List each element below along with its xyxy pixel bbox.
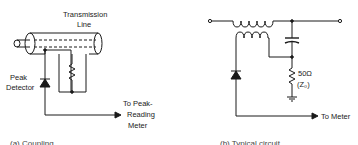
inductor-primary-icon (233, 21, 273, 27)
transmission-line-label-1: Transmission (63, 10, 107, 19)
arrow-icon (312, 113, 318, 119)
output-label-1: To Peak- (123, 99, 153, 108)
output-label-3: Meter (128, 121, 148, 130)
diode-icon (231, 71, 241, 79)
right-caption: (b) Typical circuit (220, 139, 281, 145)
inductor-secondary-icon (236, 32, 292, 57)
resistor-value-label: 50Ω (298, 69, 312, 78)
ground-icon (287, 97, 297, 101)
transmission-line-label-2: Line (77, 20, 91, 29)
peak-detector-label-1: Peak (10, 73, 27, 82)
resistor-icon (69, 54, 75, 92)
output-terminal-icon (338, 19, 341, 22)
input-terminal-icon (208, 19, 211, 22)
impedance-label: (Z₀) (297, 80, 310, 89)
resistor-50ohm-icon (289, 57, 295, 97)
diagram-canvas: Transmission Line (0, 0, 358, 145)
left-caption: (a) Coupling (10, 139, 54, 145)
arrow-icon (115, 112, 121, 118)
peak-detector-label-2: Detector (6, 83, 35, 92)
right-circuit: 50Ω (Z₀) To Meter (b) Typical circuit (208, 19, 350, 145)
to-meter-label: To Meter (321, 112, 351, 121)
left-circuit: Transmission Line (6, 10, 155, 145)
diode-icon (40, 79, 50, 87)
capacitor-icon (285, 21, 299, 57)
output-label-2: Reading (127, 110, 155, 119)
